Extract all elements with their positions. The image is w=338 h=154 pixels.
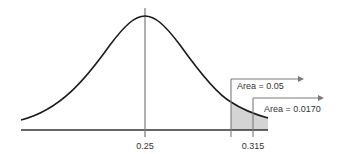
arrowhead-icon bbox=[298, 76, 304, 82]
arrowhead-icon bbox=[318, 95, 324, 101]
normal-distribution-chart: Area = 0.05 Area = 0.0170 0.25 0.315 bbox=[0, 0, 338, 154]
area-observed-label: Area = 0.0170 bbox=[264, 104, 321, 114]
tick-label-mean: 0.25 bbox=[136, 141, 154, 151]
area-critical-label: Area = 0.05 bbox=[237, 81, 284, 91]
tick-label-observed: 0.315 bbox=[242, 141, 265, 151]
